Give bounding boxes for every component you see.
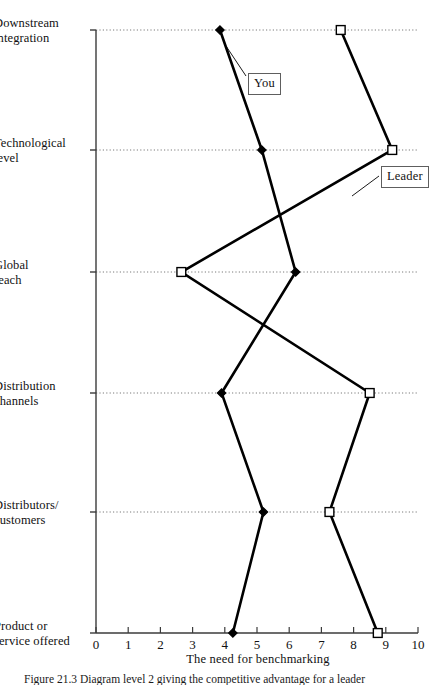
x-axis-tick-label: 4 <box>214 638 236 651</box>
series-marker-group <box>177 26 397 638</box>
x-axis-tick-label: 9 <box>375 638 397 651</box>
y-axis-category-label: Distributors/ customers <box>0 498 90 528</box>
chart-canvas <box>0 0 444 685</box>
callout-you: You <box>248 73 281 95</box>
y-axis-category-label: Distribution channels <box>0 379 90 409</box>
x-axis-tick-label: 8 <box>343 638 365 651</box>
x-axis-title: The need for benchmarking <box>96 652 420 667</box>
x-axis-tick-label: 5 <box>246 638 268 651</box>
data-point-marker-you <box>216 26 224 34</box>
x-axis-tick-label: 2 <box>149 638 171 651</box>
data-point-marker-leader <box>325 508 334 517</box>
x-axis-tick-label: 3 <box>182 638 204 651</box>
callout-leader: Leader <box>381 166 429 188</box>
y-axis-category-label: Product or service offered <box>0 619 90 649</box>
y-axis-category-label: Global reach <box>0 258 90 288</box>
data-point-marker-leader <box>388 146 397 155</box>
gridline-group <box>96 30 418 512</box>
series-line-you <box>220 30 296 633</box>
y-axis-category-label: Downstream integration <box>0 16 90 46</box>
x-axis-tick-label: 10 <box>407 638 429 651</box>
data-point-marker-you <box>258 146 266 154</box>
data-point-marker-leader <box>336 26 345 35</box>
benchmarking-figure: Downstream integrationTechnological leve… <box>0 0 444 685</box>
data-point-marker-leader <box>373 629 382 638</box>
x-axis-tick-group <box>96 627 418 633</box>
figure-caption: Figure 21.3 Diagram level 2 giving the c… <box>24 672 434 685</box>
data-point-marker-leader <box>365 389 374 398</box>
x-axis-tick-label: 0 <box>85 638 107 651</box>
data-point-marker-you <box>259 508 267 516</box>
y-axis-category-label: Technological level <box>0 136 90 166</box>
x-axis-tick-label: 7 <box>310 638 332 651</box>
data-point-marker-you <box>229 629 237 637</box>
data-point-marker-leader <box>177 268 186 277</box>
callout-leader-line-you <box>226 46 246 76</box>
x-axis-tick-label: 1 <box>117 638 139 651</box>
x-axis-tick-label: 6 <box>278 638 300 651</box>
callout-leader-line-leader <box>352 176 379 196</box>
y-axis-tick-group <box>90 30 96 633</box>
series-line-leader <box>181 30 392 633</box>
series-line-group <box>181 30 392 633</box>
